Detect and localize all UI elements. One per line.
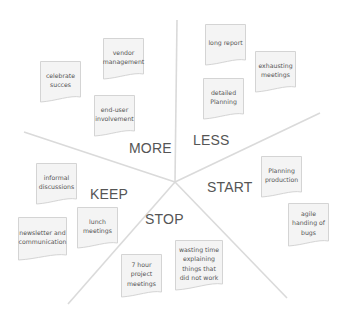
sticky-note[interactable]: Planning production (261, 156, 302, 200)
note-text: Planning production (261, 166, 302, 185)
sticky-note[interactable]: newsletter and communication (18, 217, 67, 263)
section-label-stop: STOP (145, 211, 184, 227)
starfish-retrospective-board: MORE LESS START STOP KEEP celebrate succ… (0, 0, 347, 320)
sticky-note[interactable]: exhausting meetings (255, 51, 296, 95)
sticky-note[interactable]: 7 hour project meetings (121, 254, 162, 300)
note-text: detailed Planning (203, 88, 244, 107)
sticky-note[interactable]: wasting time explaining things that did … (175, 240, 223, 293)
sticky-note[interactable]: end-user involvement (94, 95, 135, 139)
divider-top (175, 20, 177, 182)
sticky-note[interactable]: detailed Planning (203, 78, 244, 122)
note-text: celebrate succes (40, 71, 81, 90)
sticky-note[interactable]: informal discussions (36, 163, 77, 207)
note-text: newsletter and communication (17, 228, 69, 247)
sticky-note[interactable]: celebrate succes (40, 61, 81, 105)
note-text: end-user involvement (93, 105, 135, 124)
section-label-less: LESS (193, 132, 230, 148)
note-text: agile handing of bugs (288, 209, 329, 238)
note-text: long report (206, 38, 244, 48)
sticky-note[interactable]: lunch meetings (77, 207, 118, 251)
note-text: lunch meetings (77, 217, 118, 236)
note-text: vendor management (101, 48, 146, 67)
section-label-keep: KEEP (90, 186, 128, 202)
sticky-note[interactable]: vendor management (103, 38, 144, 82)
note-text: exhausting meetings (255, 61, 296, 80)
sticky-note[interactable]: agile handing of bugs (288, 203, 329, 249)
note-text: informal discussions (36, 173, 77, 192)
note-text: 7 hour project meetings (121, 260, 162, 289)
section-label-start: START (207, 179, 253, 195)
note-text: wasting time explaining things that did … (175, 245, 223, 283)
section-label-more: MORE (129, 140, 172, 156)
sticky-note[interactable]: long report (205, 24, 246, 68)
